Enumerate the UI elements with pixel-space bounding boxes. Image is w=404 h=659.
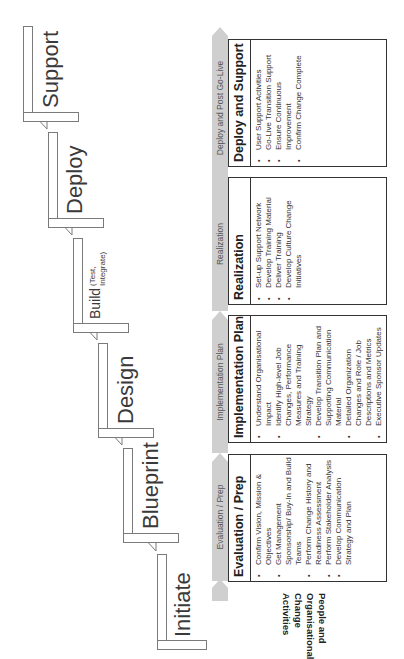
stage-label-support: Support xyxy=(40,31,62,108)
stage-label-initiate: Initiate xyxy=(172,572,194,637)
phase-arrow-evaluation-prep: Evaluation / Prep xyxy=(212,453,228,581)
activity-box-realization: Realization Set-up Support Network Devel… xyxy=(228,177,387,305)
list-item: Develop Training Material xyxy=(264,180,274,288)
box-title: Deploy and Support xyxy=(229,40,251,166)
activity-box-evaluation-prep: Evaluation / Prep Confirm Vision, Missio… xyxy=(228,454,387,582)
activity-box-implementation-plan: Implementation Plan Understand Organisat… xyxy=(228,315,387,443)
phase-arrow-realization: Realization xyxy=(212,177,228,311)
list-item: Executive Sponsor Updates xyxy=(374,318,384,426)
list-item: Set-up Support Network xyxy=(254,180,264,288)
list-item: Develop Communication Strategy and Plan xyxy=(334,457,354,565)
list-item: User Support Activities xyxy=(254,42,264,150)
stair-step-support xyxy=(23,26,33,122)
stair-step-blueprint xyxy=(123,448,133,543)
diagram-rotated-canvas: Initiate Blueprint Design Build (Test, I… xyxy=(0,0,404,659)
activity-list: User Support Activities Go-Live Transiti… xyxy=(254,40,304,166)
stage-label-design: Design xyxy=(115,356,137,424)
stage-label-blueprint: Blueprint xyxy=(140,442,162,529)
list-item: Identify High-level Job Changes, Perform… xyxy=(274,318,314,426)
phase-arrow-deploy-post-go-live: Deploy and Post Go-Live xyxy=(212,27,228,189)
activity-box-deploy-support: Deploy and Support User Support Activiti… xyxy=(228,39,387,167)
list-item: Develop Culture Change Initiatives xyxy=(284,180,304,288)
list-item: Deliver Training xyxy=(274,180,284,288)
phase-arrow-implementation-plan: Implementation Plan xyxy=(212,311,228,453)
activity-list: Understand Organisational Impact Identif… xyxy=(254,316,384,442)
activity-list: Confirm Vision, Mission & Objectives Get… xyxy=(254,455,354,581)
stage-label-build: Build xyxy=(88,288,102,319)
stair-step-build xyxy=(73,238,83,333)
box-title: Evaluation / Prep xyxy=(229,455,251,581)
phase-arrow-start xyxy=(212,579,228,601)
list-item: Detailed Organization Changes and Role /… xyxy=(344,318,374,426)
list-item: Understand Organisational Impact xyxy=(254,318,274,426)
list-item: Go-Live Transition Support xyxy=(264,42,274,150)
list-item: Perform Change History and Readiness Ass… xyxy=(304,457,324,565)
row-label-people-change: People and Organisational Change Activit… xyxy=(280,593,328,655)
stair-step-initiate xyxy=(157,554,167,650)
list-item: Develop Transition Plan and Supporting C… xyxy=(314,318,344,426)
list-item: Perform Stakeholder Analysis xyxy=(324,457,334,565)
list-item: Get Management Sponsorship/ Buy-In and B… xyxy=(274,457,304,565)
stair-step-design xyxy=(98,343,108,438)
activity-list: Set-up Support Network Develop Training … xyxy=(254,178,304,304)
box-title: Realization xyxy=(229,178,251,304)
stair-step-deploy xyxy=(48,132,58,228)
list-item: Confirm Vision, Mission & Objectives xyxy=(254,457,274,565)
list-item: Confirm Change Complete xyxy=(294,42,304,150)
stage-label-deploy: Deploy xyxy=(64,146,86,214)
stage-sublabel-build: (Test, Integrate) xyxy=(88,246,108,286)
list-item: Ensure Continuous Improvement xyxy=(274,42,294,150)
box-title: Implementation Plan xyxy=(229,316,251,442)
